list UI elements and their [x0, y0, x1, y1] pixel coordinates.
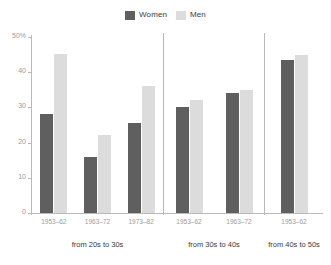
- bar: [128, 123, 141, 213]
- y-axis-tick: 20: [0, 143, 31, 144]
- bar: [142, 86, 155, 213]
- legend-entry-women: Women: [125, 11, 167, 20]
- y-axis-tick: 40: [0, 72, 31, 73]
- bar: [98, 135, 111, 213]
- y-axis-tick: 0: [0, 213, 31, 214]
- bar: [176, 107, 189, 213]
- y-axis-tick-label: 20: [18, 138, 26, 145]
- y-axis-tick: 30: [0, 107, 31, 108]
- bar: [281, 60, 294, 213]
- tick-mark: [28, 213, 31, 214]
- y-axis-tick-label: 50%: [12, 32, 26, 39]
- tick-mark: [28, 107, 31, 108]
- tick-mark: [28, 143, 31, 144]
- category-label: 1953–62: [264, 219, 324, 226]
- panel-divider: [163, 33, 164, 215]
- legend-label-men: Men: [190, 11, 206, 19]
- bar: [54, 54, 67, 213]
- tick-mark: [28, 178, 31, 179]
- square-swatch-icon: [176, 11, 186, 20]
- bar: [226, 93, 239, 213]
- panel-label: from 40s to 50s: [234, 241, 331, 249]
- bar: [84, 157, 97, 213]
- y-axis-tick-label: 30: [18, 102, 26, 109]
- y-axis-tick-label: 40: [18, 67, 26, 74]
- bar: [40, 114, 53, 213]
- tick-mark: [28, 72, 31, 73]
- square-swatch-icon: [125, 11, 135, 20]
- y-axis-tick-label: 10: [18, 173, 26, 180]
- bar: [295, 55, 308, 213]
- bar: [190, 100, 203, 213]
- y-axis-line: [31, 35, 32, 215]
- panel-divider: [264, 33, 265, 215]
- legend-entry-men: Men: [176, 11, 206, 20]
- bar: [240, 90, 253, 213]
- category-label: 1963–72: [209, 219, 269, 226]
- x-axis-line: [31, 213, 323, 214]
- tick-mark: [28, 37, 31, 38]
- y-axis-tick: 50%: [0, 37, 31, 38]
- chart-legend: Women Men: [0, 8, 331, 22]
- panel-label: from 20s to 30s: [38, 241, 158, 249]
- legend-label-women: Women: [139, 11, 167, 19]
- y-axis-tick: 10: [0, 178, 31, 179]
- y-axis-tick-label: 0: [22, 208, 26, 215]
